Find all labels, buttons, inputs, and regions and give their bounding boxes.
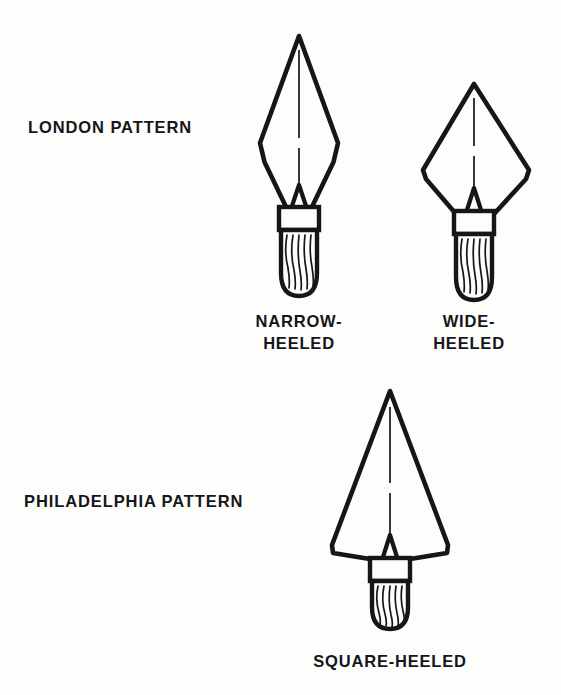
- trowel-wide-heeled: [404, 78, 552, 310]
- ferrule-narrow-heeled: [279, 207, 319, 230]
- caption-wide-heeled-line1: WIDE-: [433, 311, 505, 333]
- caption-square-heeled: SQUARE-HEELED: [313, 651, 466, 673]
- caption-narrow-heeled-line1: NARROW-: [256, 311, 343, 333]
- ferrule-wide-heeled: [454, 211, 494, 234]
- ferrule-square-heeled: [370, 558, 410, 581]
- caption-narrow-heeled-line2: HEELED: [256, 333, 343, 355]
- caption-wide-heeled-line2: HEELED: [433, 333, 505, 355]
- london-pattern-label: LONDON PATTERN: [28, 118, 192, 137]
- trowel-pattern-figure: LONDON PATTERN PHILADELPHIA PATTERN NARR…: [0, 0, 561, 695]
- philadelphia-pattern-label: PHILADELPHIA PATTERN: [24, 492, 243, 511]
- trowel-square-heeled: [314, 385, 466, 635]
- trowel-narrow-heeled: [234, 30, 364, 305]
- caption-narrow-heeled: NARROW- HEELED: [256, 311, 343, 355]
- caption-wide-heeled: WIDE- HEELED: [433, 311, 505, 355]
